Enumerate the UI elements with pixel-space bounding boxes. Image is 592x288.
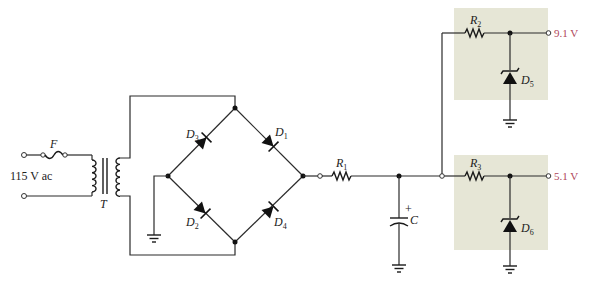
regulator-box-5v [454, 155, 548, 250]
transformer-label: T [100, 197, 108, 211]
ground-icon-bridge [147, 235, 161, 242]
regulator-box-9v [454, 8, 548, 100]
bridge-rectifier: D3 D1 D2 D4 [166, 106, 306, 245]
d3-label: D3 [185, 127, 199, 143]
output-voltage-9v: 9.1 V [554, 27, 578, 39]
r1-label: R1 [335, 156, 347, 172]
power-supply-schematic: 115 V ac F T [0, 0, 592, 288]
input-terminal-top [22, 153, 27, 158]
input-terminal-bottom [22, 194, 27, 199]
output-voltage-5v: 5.1 V [554, 170, 578, 182]
fuse-label: F [49, 137, 58, 151]
transformer-icon: T [92, 158, 120, 211]
fuse-icon [41, 152, 67, 159]
capacitor-label: C [410, 213, 419, 227]
resistor-r1-icon [332, 172, 351, 180]
ground-icon-d5 [503, 120, 517, 127]
d4-label: D4 [273, 215, 287, 231]
ground-icon-capacitor [392, 265, 406, 272]
r1-terminal [318, 174, 323, 179]
d1-label: D1 [274, 125, 288, 141]
regulator-junction-terminal [440, 174, 445, 179]
source-label: 115 V ac [10, 169, 52, 183]
output-terminal-9v [546, 31, 551, 36]
output-terminal-5v [546, 174, 551, 179]
d2-label: D2 [185, 215, 199, 231]
ground-icon-d6 [503, 266, 517, 273]
ac-input: 115 V ac F [10, 137, 92, 199]
